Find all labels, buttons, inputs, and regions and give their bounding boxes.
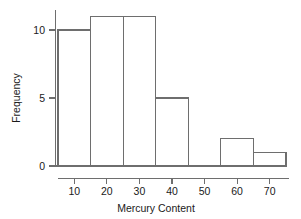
x-axis-title: Mercury Content	[117, 202, 195, 214]
y-axis-tick-label: 10	[33, 24, 45, 36]
histogram-bar	[58, 30, 91, 166]
chart-canvas: 051010203040506070 Mercury Content Frequ…	[0, 0, 301, 219]
y-axis-tick-label: 0	[39, 160, 45, 172]
histogram-bar	[123, 16, 156, 166]
histogram-figure: 051010203040506070 Mercury Content Frequ…	[0, 0, 301, 219]
histogram-bar	[253, 152, 286, 166]
histogram-bar	[221, 139, 254, 166]
x-axis-tick-label: 10	[68, 185, 80, 197]
x-axis-tick-label: 30	[134, 185, 146, 197]
x-axis-tick-label: 60	[231, 185, 243, 197]
x-axis-tick-label: 70	[264, 185, 276, 197]
bars-group	[58, 16, 286, 166]
y-axis-title: Frequency	[10, 72, 22, 122]
y-axis-tick-label: 5	[39, 92, 45, 104]
x-axis-tick-label: 40	[166, 185, 178, 197]
histogram-bar	[91, 16, 124, 166]
x-axis-tick-label: 50	[199, 185, 211, 197]
x-axis-tick-label: 20	[101, 185, 113, 197]
histogram-bar	[156, 98, 189, 166]
